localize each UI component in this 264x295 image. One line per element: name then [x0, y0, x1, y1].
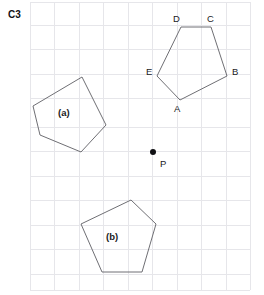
figure-canvas: DCBAE(a)(b)P C3: [0, 0, 264, 295]
marked-points: [150, 149, 156, 155]
polygon-pentagon-abcde: [157, 27, 227, 100]
shape-label-pentagon-a: (a): [58, 107, 70, 118]
geometry-diagram: DCBAE(a)(b)P C3: [0, 0, 264, 295]
vertex-label-b: B: [232, 66, 238, 77]
point-label-p: P: [160, 158, 166, 169]
vertex-label-c: C: [207, 13, 214, 24]
vertex-label-d: D: [173, 13, 180, 24]
point-dot-p: [150, 149, 156, 155]
polygon-shapes: [33, 27, 227, 272]
shape-label-pentagon-b: (b): [106, 231, 118, 242]
vertex-label-e: E: [146, 66, 152, 77]
exercise-number-label: C3: [8, 9, 21, 20]
polygon-pentagon-b: [81, 200, 156, 272]
vertex-label-a: A: [174, 103, 181, 114]
